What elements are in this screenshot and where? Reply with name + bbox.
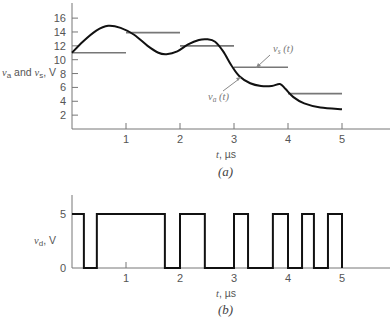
vs-annotation: vs (t) [273, 43, 294, 56]
x-tick-label: 5 [339, 133, 345, 145]
y-tick-label: 16 [54, 12, 66, 24]
vs-step-series [72, 33, 342, 94]
panel-b-y-ticks: 05 [60, 208, 72, 274]
y-tick-label: 4 [60, 95, 66, 107]
y-tick-label: 2 [60, 109, 66, 121]
panel-a-y-ticks: 246810121416 [54, 12, 78, 121]
x-tick-label: 4 [285, 133, 291, 145]
x-tick-label: 3 [231, 272, 237, 284]
panel-a-x-label: t, µs [216, 148, 236, 160]
x-tick-label: 2 [177, 133, 183, 145]
figure: 246810121416 12345 va and vs, V t, µs (a… [0, 0, 390, 317]
panel-a-x-ticks: 12345 [123, 123, 345, 145]
panel-a-y-label: va and vs, V [2, 66, 56, 80]
x-tick-label: 2 [177, 272, 183, 284]
panel-b-y-label: vd, V [34, 234, 56, 248]
vd-digital-waveform [72, 214, 342, 268]
va-annotation-arrow [223, 79, 239, 91]
x-tick-label: 1 [123, 133, 129, 145]
vs-annotation-arrow [258, 55, 270, 66]
panel-b-x-label: t, µs [216, 287, 236, 299]
va-annotation: va (t) [208, 91, 229, 104]
panel-b-caption: (b) [218, 302, 233, 317]
y-tick-label: 12 [54, 40, 66, 52]
panel-a-caption: (a) [218, 164, 233, 179]
y-tick-label: 8 [60, 68, 66, 80]
panel-b: 05 12345 vd, V t, µs (b) [34, 195, 390, 317]
y-tick-label: 10 [54, 54, 66, 66]
y-tick-label: 5 [60, 208, 66, 220]
va-curve [72, 26, 342, 110]
y-tick-label: 0 [60, 262, 66, 274]
x-tick-label: 3 [231, 133, 237, 145]
x-tick-label: 1 [123, 272, 129, 284]
y-tick-label: 14 [54, 26, 66, 38]
x-tick-label: 4 [285, 272, 291, 284]
panel-a: 246810121416 12345 va and vs, V t, µs (a… [2, 3, 390, 179]
x-tick-label: 5 [339, 272, 345, 284]
y-tick-label: 6 [60, 81, 66, 93]
